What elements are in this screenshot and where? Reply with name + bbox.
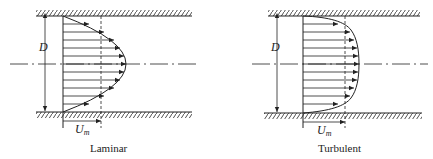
bottom-pipe-wall [264,113,422,119]
turbulent-caption: Turbulent [318,142,361,154]
top-pipe-wall [268,10,420,16]
bottom-pipe-wall [36,112,192,118]
velocity-arrows [63,24,126,104]
turbulent-diagram: D Um Turbulent [252,10,428,154]
laminar-diagram: D Um Laminar [10,10,200,154]
mean-velocity-label: Um [317,123,332,138]
laminar-caption: Laminar [90,142,128,154]
diameter-label: D [270,40,280,54]
turbulent-velocity-profile [303,16,359,113]
diameter-label: D [38,40,48,54]
velocity-arrows [303,24,359,104]
top-pipe-wall [36,10,192,16]
pipe-flow-velocity-profiles: D Um Laminar [0,0,433,159]
mean-velocity-label: Um [75,122,90,137]
